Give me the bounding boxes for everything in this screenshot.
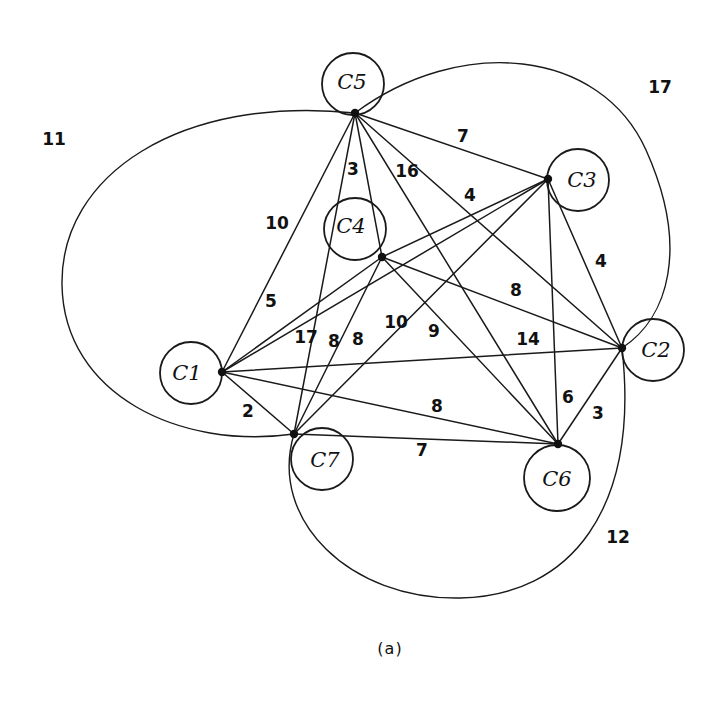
node-label-c5: C5 — [337, 70, 366, 94]
edge-weight-c5-c1: 10 — [265, 213, 289, 233]
edge-c5-c6 — [355, 113, 558, 444]
edge-weight-labels-layer: 731610149458810417868273111712 — [42, 77, 672, 547]
node-label-c1: C1 — [172, 361, 201, 385]
graph-canvas: C1C2C3C4C5C6C7 7316101494588104178682731… — [0, 0, 718, 702]
node-c1[interactable]: C1 — [160, 342, 226, 404]
node-c3[interactable]: C3 — [544, 149, 609, 211]
arc-c5-c2 — [355, 63, 670, 348]
node-vertex-dot-c7 — [290, 430, 298, 438]
node-c7[interactable]: C7 — [290, 428, 353, 490]
node-vertex-dot-c3 — [544, 175, 552, 183]
edge-c1-c6 — [222, 372, 558, 444]
edge-c1-c7 — [222, 372, 294, 434]
node-vertex-dot-c1 — [218, 368, 226, 376]
node-c5[interactable]: C5 — [322, 53, 384, 117]
edge-weight-c5-c4: 3 — [347, 159, 359, 179]
edge-c4-c6 — [382, 257, 558, 444]
edge-c5-c3 — [355, 113, 548, 179]
edge-weight-c1-c7: 2 — [242, 401, 254, 421]
node-c6[interactable]: C6 — [524, 440, 590, 511]
node-vertex-dot-c6 — [554, 440, 562, 448]
node-vertex-dot-c5 — [351, 109, 359, 117]
edge-weight-c3-c7: 8 — [328, 331, 340, 351]
edge-c1-c2 — [222, 348, 622, 372]
edge-weight-c4-c6: 10 — [384, 312, 408, 332]
edge-c3-c6 — [548, 179, 558, 444]
arc-c5-c7 — [62, 110, 355, 436]
node-c2[interactable]: C2 — [618, 319, 684, 381]
edge-weight-c4-c2: 8 — [510, 280, 522, 300]
arc-c7-c2 — [289, 348, 625, 598]
edge-weight-c5-c2: 9 — [428, 321, 440, 341]
edge-weight-c3-c1: 17 — [294, 327, 318, 347]
edge-weight-c6-c2: 3 — [592, 403, 604, 423]
node-label-c4: C4 — [336, 214, 365, 238]
node-label-c3: C3 — [567, 168, 596, 192]
arc-weight-c5-c2: 17 — [648, 77, 672, 97]
edge-weight-c3-c6: 6 — [562, 387, 574, 407]
edge-weight-c5-c7: 16 — [395, 161, 419, 181]
figure-caption: (a) — [377, 639, 402, 658]
node-vertex-dot-c2 — [618, 344, 626, 352]
edge-weight-c1-c6: 8 — [431, 396, 443, 416]
edge-c5-c7 — [294, 113, 355, 434]
node-label-c6: C6 — [542, 467, 571, 491]
arc-weight-c7-c2: 12 — [606, 527, 630, 547]
arc-weight-c5-c7: 11 — [42, 129, 66, 149]
node-label-c2: C2 — [641, 338, 670, 362]
node-label-c7: C7 — [310, 448, 340, 472]
edge-weight-c3-c2: 4 — [595, 251, 607, 271]
arcs-layer — [62, 63, 670, 598]
node-vertex-dot-c4 — [378, 253, 386, 261]
edge-c4-c2 — [382, 257, 622, 348]
edge-weight-c4-c7: 8 — [352, 329, 364, 349]
edge-weight-c4-c3: 4 — [464, 185, 476, 205]
edge-weight-c5-c6: 14 — [516, 329, 540, 349]
graph-figure: C1C2C3C4C5C6C7 7316101494588104178682731… — [0, 0, 718, 702]
edge-weight-c7-c6: 7 — [416, 440, 428, 460]
edge-weight-c4-c1: 5 — [265, 291, 277, 311]
edge-c4-c1 — [222, 257, 382, 372]
edge-weight-c5-c3: 7 — [457, 126, 469, 146]
